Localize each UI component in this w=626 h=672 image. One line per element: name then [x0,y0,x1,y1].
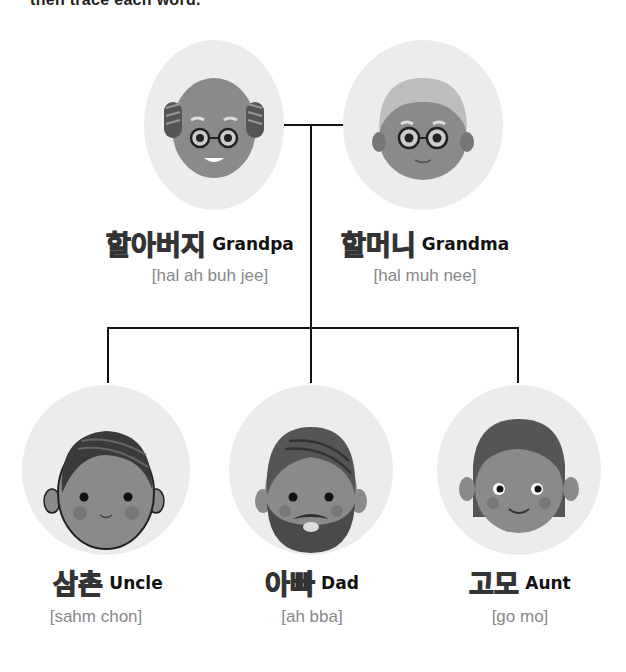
aunt-english: Aunt [525,573,571,593]
connector-uncle [107,327,109,383]
aunt-face-icon [437,385,601,555]
uncle-korean: 삼촌 [53,569,103,600]
uncle-face-icon [22,385,190,555]
dad-korean: 아빠 [265,569,315,600]
connector-dad [310,327,312,383]
connector-trunk [310,124,312,329]
grandpa-korean: 할아버지 [106,230,206,261]
grandpa-pronunciation: [hal ah buh jee] [110,266,310,286]
grandpa-label: 할아버지Grandpa [100,224,300,263]
dad-face-icon [229,385,393,555]
uncle-label: 삼촌Uncle [8,563,208,602]
dad-pronunciation: [ah bba] [212,607,412,627]
instruction-text: then trace each word. [30,0,201,9]
grandma-label: 할머니Grandma [325,224,525,263]
dad-english: Dad [321,573,359,593]
grandma-pronunciation: [hal muh nee] [325,266,525,286]
uncle-english: Uncle [109,573,162,593]
connector-aunt [517,327,519,383]
uncle-portrait [22,385,190,555]
aunt-korean: 고모 [469,569,519,600]
grandma-korean: 할머니 [341,230,416,261]
grandpa-face-icon [144,40,284,210]
grandma-portrait [343,40,503,210]
aunt-pronunciation: [go mo] [420,607,620,627]
aunt-portrait [437,385,601,555]
connector-children-bar [107,327,519,329]
aunt-label: 고모Aunt [420,563,620,602]
uncle-pronunciation: [sahm chon] [0,607,196,627]
grandma-english: Grandma [422,234,509,254]
grandpa-english: Grandpa [212,234,294,254]
dad-label: 아빠Dad [212,563,412,602]
grandma-face-icon [343,40,503,210]
dad-portrait [229,385,393,555]
grandpa-portrait [144,40,284,210]
